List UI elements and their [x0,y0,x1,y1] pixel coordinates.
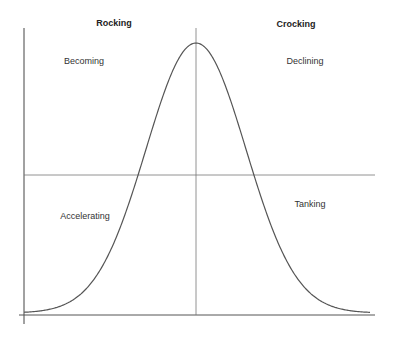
header-crocking: Crocking [276,19,315,29]
label-becoming: Becoming [64,56,104,66]
label-declining: Declining [286,56,323,66]
bell-curve-diagram [0,0,397,340]
bell-curve [24,43,370,312]
header-rocking: Rocking [96,18,132,28]
label-accelerating: Accelerating [60,211,110,221]
label-tanking: Tanking [294,199,325,209]
